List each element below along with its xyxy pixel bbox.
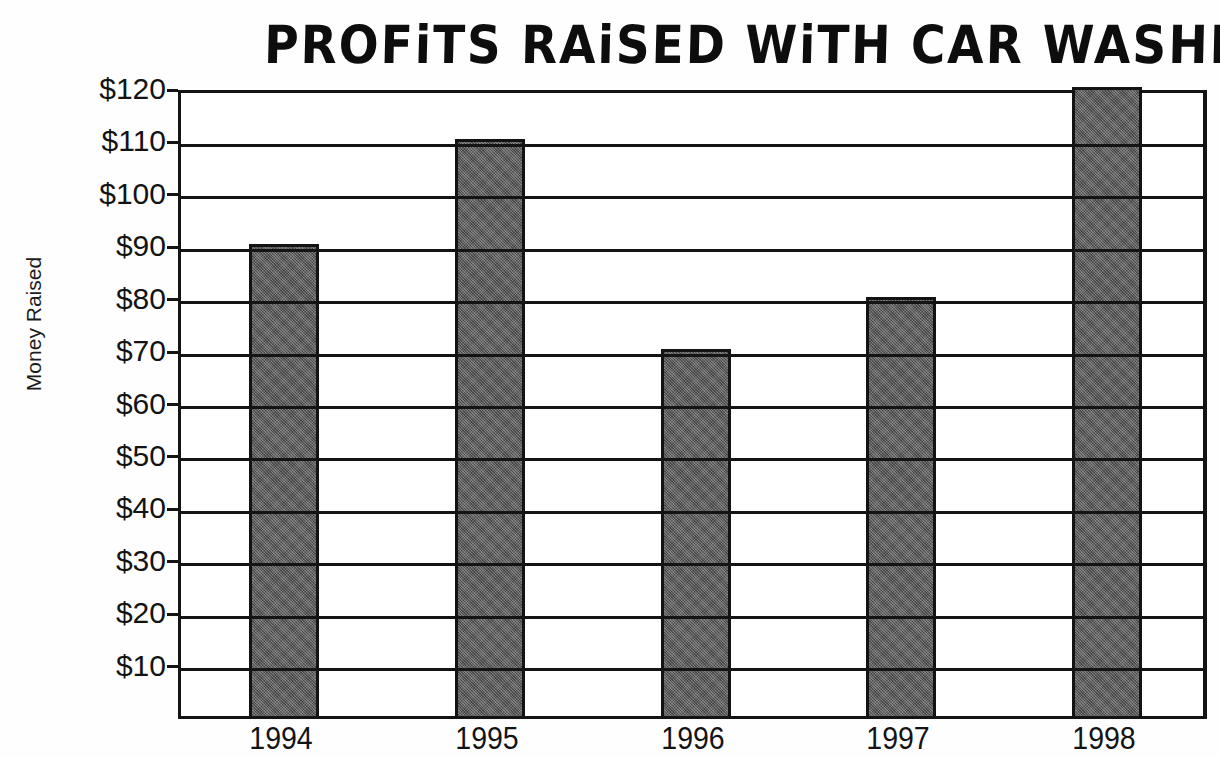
y-axis-tick-mark [167,665,178,668]
gridline [181,511,1203,514]
y-axis-tick-label: $100 [46,179,166,209]
y-axis-tick-mark [167,246,178,249]
y-axis-tick-label: $90 [46,231,166,261]
y-axis-tick-label: $70 [46,336,166,366]
gridline [181,563,1203,566]
x-axis-tick-label: 1994 [198,722,364,756]
gridline [181,406,1203,409]
x-axis-tick-label: 1996 [610,722,776,756]
gridline [181,144,1203,147]
y-axis-tick-mark [167,89,178,92]
y-axis-title: Money Raised [22,224,46,424]
bar-1994 [249,244,319,716]
y-axis-tick-mark [167,508,178,511]
bar-1995 [455,139,525,716]
y-axis-tick-label: $60 [46,389,166,419]
y-axis-tick-mark [167,403,178,406]
gridline [181,354,1203,357]
chart-title: PROFiTS RAiSED WiTH CAR WASHES [263,8,1165,89]
y-axis-tick-mark [167,560,178,563]
bar-1998 [1072,87,1142,716]
x-axis-tick-label: 1995 [404,722,570,756]
bar-1996 [661,349,731,716]
gridline [181,301,1203,304]
gridline [181,458,1203,461]
gridline [181,668,1203,671]
y-axis-tick-mark [167,613,178,616]
y-axis-tick-mark [167,141,178,144]
y-axis-tick-mark [167,193,178,196]
y-axis-tick-label: $10 [46,651,166,681]
x-axis-tick-label: 1997 [815,722,981,756]
gridline [181,249,1203,252]
y-axis-tick-mark [167,455,178,458]
plot-area [178,90,1207,719]
y-axis-tick-label: $20 [46,598,166,628]
y-axis-tick-mark [167,298,178,301]
bar-1997 [866,297,936,716]
bar-chart: PROFiTS RAiSED WiTH CAR WASHES Money Rai… [0,0,1220,757]
y-axis-tick-label: $110 [46,126,166,156]
y-axis-tick-mark [167,351,178,354]
y-axis-tick-label: $80 [46,284,166,314]
x-axis-tick-label: 1998 [1021,722,1187,756]
y-axis-tick-label: $120 [46,74,166,104]
y-axis-tick-label: $40 [46,493,166,523]
y-axis-tick-label: $30 [46,546,166,576]
gridline [181,616,1203,619]
gridline [181,196,1203,199]
y-axis-tick-label: $50 [46,441,166,471]
